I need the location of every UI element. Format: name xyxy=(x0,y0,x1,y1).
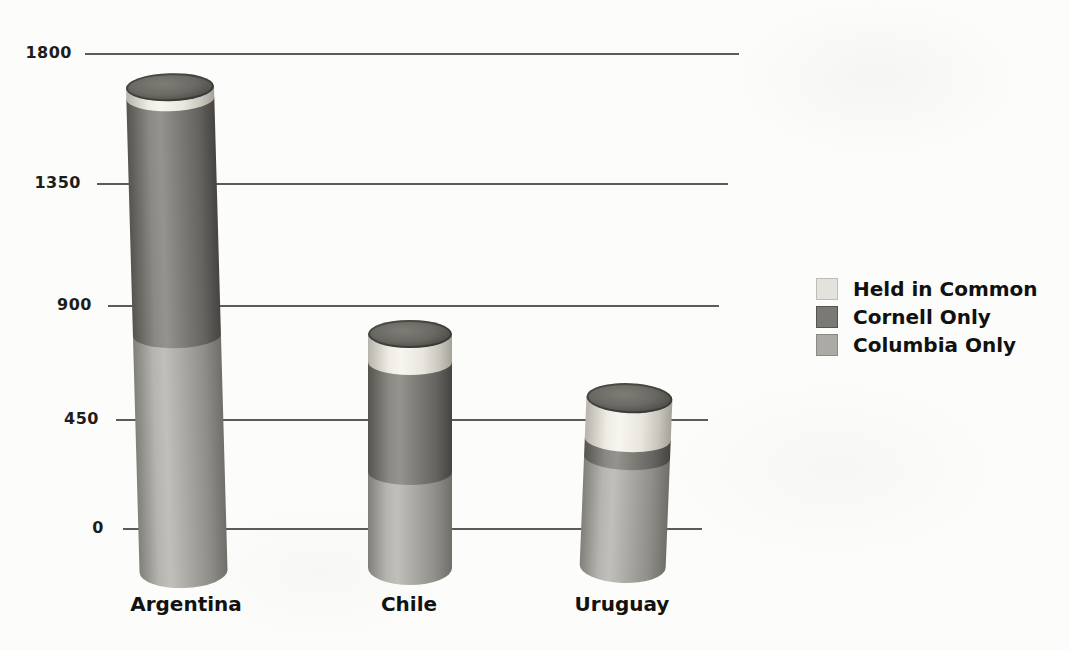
y-tick-label-900: 900 xyxy=(22,295,92,314)
bar-argentina xyxy=(126,72,228,589)
legend-swatch-cornell-only xyxy=(816,306,838,328)
legend-label-cornell-only: Cornell Only xyxy=(853,307,991,327)
y-tick-label-450: 450 xyxy=(29,409,99,428)
gridline-1800 xyxy=(85,53,739,55)
bar-argentina-segment-columbia-only xyxy=(133,334,228,589)
bar-argentina-segment-cornell-only xyxy=(126,97,221,349)
bar-uruguay xyxy=(579,381,673,584)
legend-swatch-columbia-only xyxy=(816,334,838,356)
x-label-argentina: Argentina xyxy=(96,592,276,616)
legend-item-cornell-only: Cornell Only xyxy=(816,306,1038,328)
legend: Held in Common Cornell Only Columbia Onl… xyxy=(816,278,1038,362)
bar-chile-segment-columbia-only xyxy=(368,472,452,585)
chart: 1800 1350 900 450 0 Argentina Chile Urug… xyxy=(0,0,1069,650)
y-tick-label-0: 0 xyxy=(34,518,104,537)
y-tick-label-1800: 1800 xyxy=(2,43,72,62)
legend-item-columbia-only: Columbia Only xyxy=(816,334,1038,356)
y-tick-label-1350: 1350 xyxy=(11,173,81,192)
legend-label-held-in-common: Held in Common xyxy=(853,279,1038,299)
legend-label-columbia-only: Columbia Only xyxy=(853,335,1016,355)
bar-chile-cylinder-cap xyxy=(368,320,452,348)
bar-chile-segment-cornell-only xyxy=(368,362,452,485)
x-label-uruguay: Uruguay xyxy=(532,592,712,616)
x-label-chile: Chile xyxy=(319,592,499,616)
legend-swatch-held-in-common xyxy=(816,278,838,300)
legend-item-held-in-common: Held in Common xyxy=(816,278,1038,300)
bar-uruguay-segment-columbia-only xyxy=(579,455,670,584)
bar-chile xyxy=(368,320,452,585)
